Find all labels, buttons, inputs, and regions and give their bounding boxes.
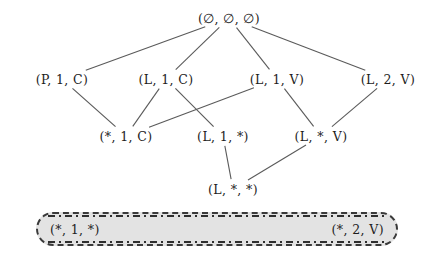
lattice-node-lstarstar: (L, *, *): [208, 182, 258, 197]
lattice-node-l1v: (L, 1, V): [250, 72, 305, 87]
highlight-region-box: (*, 1, *) (*, 2, V): [36, 212, 398, 246]
lattice-node-lstarv: (L, *, V): [295, 129, 348, 144]
lattice-node-star-1-star: (*, 1, *): [50, 222, 100, 237]
lattice-diagram: (∅, ∅, ∅)(P, 1, C)(L, 1, C)(L, 1, V)(L, …: [0, 0, 436, 254]
lattice-node-l1c: (L, 1, C): [138, 72, 193, 87]
lattice-node-l1star: (L, 1, *): [197, 129, 249, 144]
lattice-node-p1c: (P, 1, C): [36, 72, 89, 87]
lattice-node-emptyemptyempty: (∅, ∅, ∅): [198, 11, 260, 26]
lattice-node-l2v: (L, 2, V): [361, 72, 416, 87]
lattice-node-star-2-v: (*, 2, V): [332, 222, 384, 237]
lattice-node-star1c: (*, 1, C): [99, 129, 152, 144]
